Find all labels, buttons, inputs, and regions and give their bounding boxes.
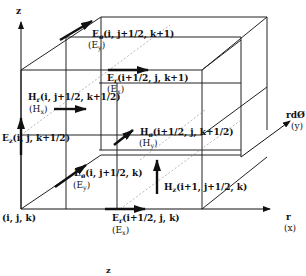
- phi-axis-alt-label: (y): [291, 121, 303, 131]
- z-axis-label: z: [16, 6, 21, 16]
- phi-axis: [241, 121, 290, 157]
- r-axis-alt-label: (x): [284, 223, 296, 233]
- phi-axis-label: rdØ: [286, 110, 305, 120]
- cube-edges: [21, 17, 267, 209]
- e-phi-top-alt: (Ey): [88, 40, 105, 53]
- h-phi-mid-alt: (Hy): [139, 138, 158, 151]
- h-z-bottom-label: Hz(i+1, j+1/2, k): [164, 182, 247, 195]
- e-r-bottom-alt: (Ex): [112, 225, 129, 238]
- caption-fragment: z: [106, 265, 111, 275]
- origin-label: (i, j, k): [2, 213, 36, 223]
- axes: [21, 22, 290, 209]
- e-phi-bottom-alt: (Ey): [73, 180, 90, 193]
- r-axis-label: r: [286, 212, 291, 222]
- e-z-mid-label: Ez(i, j, k+1/2): [2, 133, 70, 146]
- h-r-mid-alt: (Hx): [29, 104, 48, 117]
